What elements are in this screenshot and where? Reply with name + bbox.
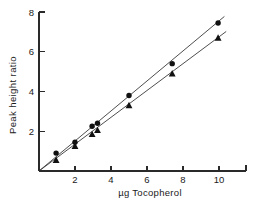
x-tick-label: 6 <box>144 174 149 185</box>
regression-line-triangles <box>39 31 226 171</box>
data-point-circle <box>170 61 175 66</box>
y-tick-label: 6 <box>29 46 34 57</box>
x-axis-title: µg Tocopherol <box>118 187 182 198</box>
y-tick-label: 8 <box>29 7 34 18</box>
x-tick-label: 8 <box>180 174 185 185</box>
scatter-plot: 2468102468 µg Tocopherol Peak height rat… <box>0 0 260 209</box>
data-point-circle <box>89 124 94 129</box>
data-point-triangle <box>89 131 96 137</box>
data-point-circle <box>215 20 220 25</box>
regression-line-circles <box>39 16 224 171</box>
y-tick-label: 2 <box>29 126 34 137</box>
axes <box>39 12 246 171</box>
axis-ticks <box>39 12 219 171</box>
regression-lines <box>39 16 226 171</box>
x-tick-label: 4 <box>108 174 113 185</box>
data-point-circle <box>53 150 58 155</box>
data-point-triangle <box>94 127 101 133</box>
data-point-triangle <box>126 102 133 108</box>
chart-figure: 2468102468 µg Tocopherol Peak height rat… <box>0 0 260 209</box>
x-tick-label: 10 <box>214 174 225 185</box>
x-tick-label: 2 <box>72 174 77 185</box>
data-point-circle <box>95 121 100 126</box>
y-axis-title: Peak height ratio <box>7 56 18 134</box>
y-tick-label: 4 <box>29 86 34 97</box>
data-point-circle <box>126 93 131 98</box>
